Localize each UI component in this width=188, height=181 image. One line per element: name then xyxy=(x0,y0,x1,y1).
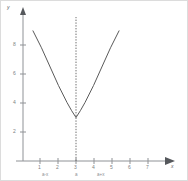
x-tick-label-5: 5 xyxy=(110,165,113,170)
center-label: a xyxy=(75,173,78,178)
y-tick-label-2: 2 xyxy=(13,129,16,134)
y-tick-label-4: 4 xyxy=(13,100,16,105)
chart-figure: y x 2 4 6 8 1 2 3 4 5 6 7 a-x a a+x xyxy=(0,0,188,181)
x-tick-label-2: 2 xyxy=(56,165,59,170)
y-tick-label-8: 8 xyxy=(13,42,16,47)
y-tick-label-6: 6 xyxy=(13,71,16,76)
x-tick-label-6: 6 xyxy=(128,165,131,170)
y-axis-arrow xyxy=(20,7,26,15)
x-tick-label-7: 7 xyxy=(146,165,149,170)
y-axis-label: y xyxy=(7,5,10,10)
left-interval-label: a-x xyxy=(42,173,48,178)
x-axis-label: x xyxy=(171,164,174,169)
right-interval-label: a+x xyxy=(97,173,104,178)
chart-plot-area xyxy=(1,1,187,180)
x-tick-label-1: 1 xyxy=(38,165,41,170)
x-tick-label-3: 3 xyxy=(74,165,77,170)
x-tick-label-4: 4 xyxy=(92,165,95,170)
